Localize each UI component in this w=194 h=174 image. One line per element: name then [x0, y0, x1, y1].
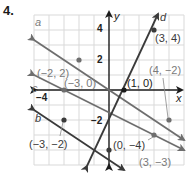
point-4-neg2 [166, 117, 171, 122]
label-point-4-neg2: (4, −2) [149, 64, 181, 76]
label-line-d: d [160, 11, 167, 23]
tick-x-neg4: −4 [36, 92, 48, 103]
tick-y-neg2: −2 [91, 115, 103, 126]
label-line-b: b [35, 112, 41, 124]
label-point-3-4: (3, 4) [155, 32, 181, 44]
point-0-neg4 [106, 147, 111, 152]
leader-3-neg3 [148, 137, 153, 140]
point-1-0 [121, 87, 126, 92]
x-axis-label: x [175, 92, 182, 104]
coordinate-plane: 4 2 −2 −4 y x a b c d (−2, 2) (−3, 0) (1… [0, 0, 194, 174]
label-point-neg3-neg2: (−3, −2) [29, 138, 68, 150]
point-neg2-2 [76, 57, 81, 62]
tick-y-4: 4 [97, 23, 103, 34]
label-point-1-0: (1, 0) [127, 77, 153, 89]
leader-4-neg2 [163, 78, 168, 118]
label-point-neg3-0: (−3, 0) [64, 77, 96, 89]
tick-y-2: 2 [97, 54, 103, 65]
label-line-c: c [32, 82, 38, 94]
point-neg3-neg2 [61, 117, 66, 122]
label-point-0-neg4: (0, −4) [113, 139, 145, 151]
label-point-3-neg3: (3, −3) [139, 156, 171, 168]
label-line-a: a [35, 16, 41, 28]
y-axis-label: y [113, 10, 121, 22]
point-3-neg3 [151, 132, 156, 137]
